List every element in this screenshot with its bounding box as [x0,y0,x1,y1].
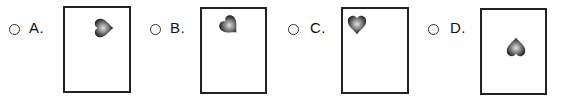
option-frame-c [341,7,409,94]
option-c: C. [280,0,420,103]
radio-button-d[interactable] [428,24,439,35]
radio-button-b[interactable] [150,24,161,35]
option-label-a: A. [29,19,44,36]
option-d: D. [420,0,563,103]
heart-icon [93,17,115,39]
option-a: A. [0,0,140,103]
option-frame-b [200,7,267,94]
heart-icon [505,36,527,58]
option-label-d: D. [450,19,466,36]
option-label-b: B. [170,19,185,36]
option-frame-a [63,6,131,93]
option-label-c: C. [310,19,326,36]
option-b: B. [140,0,280,103]
option-frame-d [480,8,547,95]
radio-button-a[interactable] [9,24,20,35]
heart-icon [214,10,245,41]
heart-icon [346,13,368,37]
radio-button-c[interactable] [288,24,299,35]
